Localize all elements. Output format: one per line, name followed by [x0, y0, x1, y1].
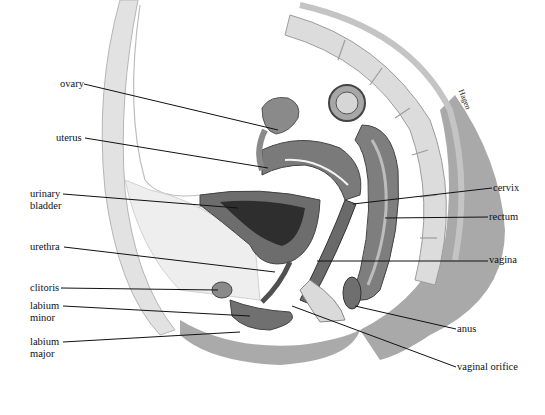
- peritoneum-line: [134, 5, 200, 196]
- label-clitoris: clitoris: [30, 282, 59, 294]
- label-uterus: uterus: [56, 132, 82, 144]
- label-labium-major-line1: labium: [30, 336, 59, 348]
- label-labium-minor: labium minor: [30, 300, 59, 324]
- illustration: [0, 0, 545, 415]
- label-labium-minor-line2: minor: [30, 312, 59, 324]
- urethra: [262, 262, 290, 302]
- label-vagina: vagina: [489, 254, 517, 266]
- label-labium-major-line2: major: [30, 348, 59, 360]
- label-anus: anus: [457, 323, 476, 335]
- rectum: [352, 125, 399, 300]
- label-urinary-bladder-line1: urinary: [30, 188, 62, 200]
- perineum: [300, 280, 345, 322]
- label-rectum: rectum: [489, 211, 518, 223]
- ovary: [262, 97, 299, 134]
- label-ovary: ovary: [60, 78, 84, 90]
- label-labium-minor-line1: labium: [30, 300, 59, 312]
- label-urinary-bladder-line2: bladder: [30, 200, 62, 212]
- anal-sphincter: [343, 277, 361, 309]
- label-cervix: cervix: [493, 182, 519, 194]
- label-labium-major: labium major: [30, 336, 59, 360]
- label-vaginal-orifice: vaginal orifice: [457, 361, 518, 373]
- label-urinary-bladder: urinary bladder: [30, 188, 62, 212]
- label-urethra: urethra: [30, 241, 60, 253]
- abdominal-wall: [102, 0, 175, 335]
- uterus: [262, 140, 361, 200]
- anatomy-diagram: ovary uterus urinary bladder urethra cli…: [0, 0, 545, 415]
